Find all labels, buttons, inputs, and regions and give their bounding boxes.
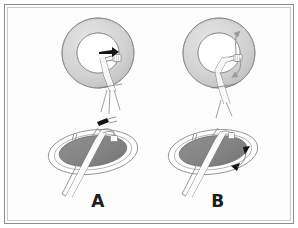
- clip: [97, 117, 117, 126]
- panel-a-ring-view: [62, 18, 134, 114]
- annulus-ring: [62, 18, 134, 88]
- panel-b-ring-view: [183, 18, 255, 118]
- figure-illustration: [0, 0, 298, 228]
- panel-a-oval-view: [46, 117, 141, 197]
- panel-label-a: A: [88, 193, 108, 210]
- panel-b-oval-view: [166, 125, 261, 197]
- figure-root: A B: [0, 0, 298, 228]
- panel-label-b: B: [208, 193, 228, 210]
